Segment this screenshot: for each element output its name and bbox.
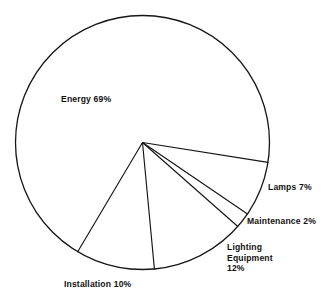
slice-label-lamps: Lamps 7% bbox=[268, 182, 312, 193]
slice-label-installation: Installation 10% bbox=[64, 279, 131, 290]
slice-boundary-installation-energy bbox=[78, 143, 143, 252]
slice-boundary-lamps-maintenance bbox=[143, 143, 248, 214]
pie-chart: Energy 69% Lamps 7% Maintenance 2% Light… bbox=[0, 0, 335, 300]
slice-label-maintenance: Maintenance 2% bbox=[247, 216, 316, 227]
slice-boundary-lighting-installation bbox=[143, 143, 155, 269]
slice-label-energy: Energy 69% bbox=[61, 94, 111, 105]
pie-chart-graphic bbox=[0, 0, 335, 300]
slice-label-lighting-equipment: Lighting Equipment 12% bbox=[227, 242, 273, 274]
